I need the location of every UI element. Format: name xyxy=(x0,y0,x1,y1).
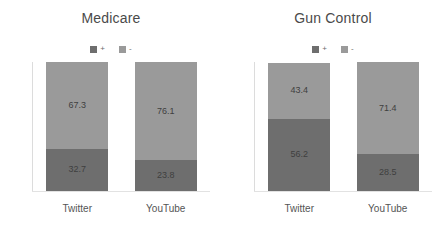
x-axis-label-twitter: Twitter xyxy=(268,203,330,214)
bar-segment-positive: 76.1 xyxy=(135,62,197,160)
bar-segment-negative: 28.5 xyxy=(357,154,419,191)
x-axis-label-youtube: YouTube xyxy=(357,203,419,214)
legend-item-positive: + xyxy=(90,45,105,53)
chart-legend: + - xyxy=(222,45,444,53)
chart-title: Gun Control xyxy=(222,10,444,26)
legend-swatch-negative-icon xyxy=(341,46,348,53)
bar-series-container: 67.3 32.7 76.1 23.8 xyxy=(33,62,210,191)
chart-title: Medicare xyxy=(0,10,222,26)
plot-area: 67.3 32.7 76.1 23.8 xyxy=(32,62,210,192)
bar-segment-positive: 43.4 xyxy=(268,63,330,119)
x-axis-label-youtube: YouTube xyxy=(135,203,197,214)
plot-area: 43.4 56.2 71.4 28.5 xyxy=(254,62,432,192)
bar-segment-positive: 71.4 xyxy=(357,62,419,154)
legend-label-negative: - xyxy=(129,45,132,53)
bar-segment-negative: 56.2 xyxy=(268,119,330,191)
legend-swatch-positive-icon xyxy=(90,46,97,53)
bar-group-twitter: 43.4 56.2 xyxy=(268,62,330,191)
x-axis-line xyxy=(32,191,210,192)
legend-item-positive: + xyxy=(312,45,327,53)
stacked-bar-chart-figure: Medicare + - 67.3 32.7 76.1 23 xyxy=(0,0,444,236)
chart-panel-medicare: Medicare + - 67.3 32.7 76.1 23 xyxy=(0,0,222,236)
bar-segment-negative: 32.7 xyxy=(46,149,108,191)
legend-label-positive: + xyxy=(322,45,327,53)
chart-legend: + - xyxy=(0,45,222,53)
bar-segment-positive: 67.3 xyxy=(46,62,108,149)
legend-swatch-positive-icon xyxy=(312,46,319,53)
x-axis-line xyxy=(254,191,432,192)
legend-label-negative: - xyxy=(351,45,354,53)
x-axis-label-twitter: Twitter xyxy=(46,203,108,214)
x-axis-category-labels: Twitter YouTube xyxy=(33,203,210,214)
legend-item-negative: - xyxy=(341,45,354,53)
bar-group-twitter: 67.3 32.7 xyxy=(46,62,108,191)
legend-swatch-negative-icon xyxy=(119,46,126,53)
bar-segment-negative: 23.8 xyxy=(135,160,197,191)
bar-series-container: 43.4 56.2 71.4 28.5 xyxy=(255,62,432,191)
legend-label-positive: + xyxy=(100,45,105,53)
bar-group-youtube: 76.1 23.8 xyxy=(135,62,197,191)
bar-group-youtube: 71.4 28.5 xyxy=(357,62,419,191)
x-axis-category-labels: Twitter YouTube xyxy=(255,203,432,214)
legend-item-negative: - xyxy=(119,45,132,53)
chart-panel-gun-control: Gun Control + - 43.4 56.2 71.4 xyxy=(222,0,444,236)
